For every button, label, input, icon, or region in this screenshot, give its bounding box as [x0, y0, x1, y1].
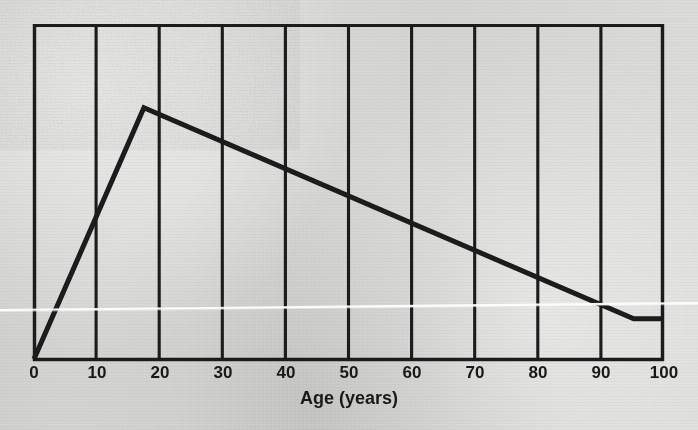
x-tick-label-90: 90 [592, 363, 611, 382]
x-tick-label-40: 40 [277, 363, 296, 382]
x-tick-label-30: 30 [214, 363, 233, 382]
x-tick-label-60: 60 [403, 363, 422, 382]
x-tick-label-80: 80 [529, 363, 548, 382]
line-chart: 0 10 20 30 40 50 60 70 80 90 100 Age (ye… [0, 0, 698, 430]
scanned-figure-page: 0 10 20 30 40 50 60 70 80 90 100 Age (ye… [0, 0, 698, 430]
x-tick-labels: 0 10 20 30 40 50 60 70 80 90 100 [29, 363, 678, 382]
x-tick-label-0: 0 [29, 363, 38, 382]
x-tick-label-10: 10 [88, 363, 107, 382]
x-tick-label-50: 50 [340, 363, 359, 382]
x-tick-label-20: 20 [151, 363, 170, 382]
x-axis-title: Age (years) [300, 388, 398, 408]
x-tick-label-100: 100 [650, 363, 678, 382]
x-tick-label-70: 70 [466, 363, 485, 382]
